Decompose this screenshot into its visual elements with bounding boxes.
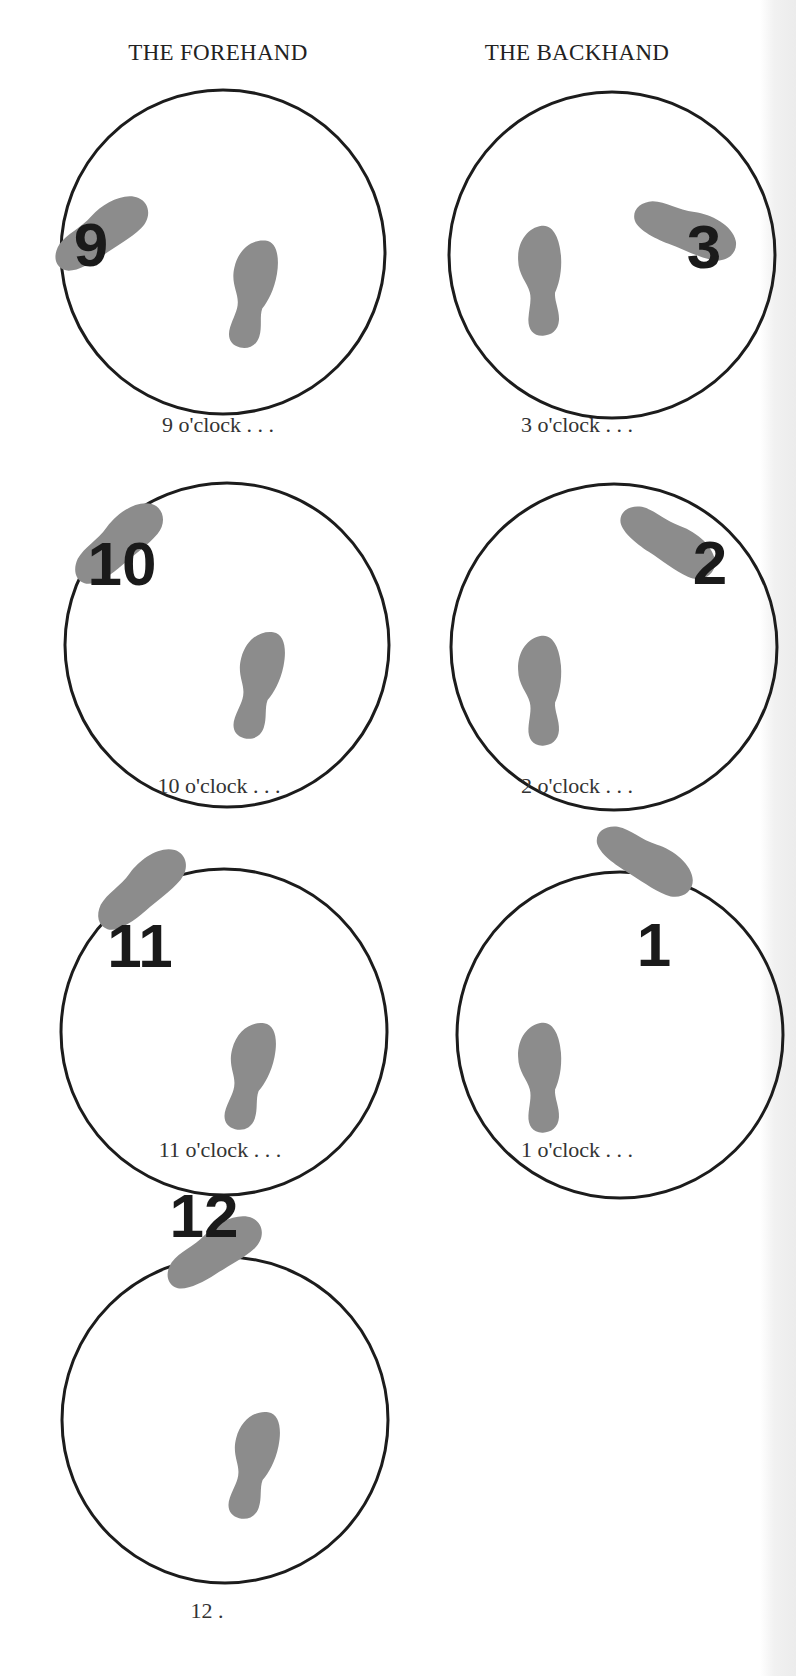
diagram-caption: 12 . (191, 1598, 224, 1623)
diagram-caption: 9 o'clock . . . (162, 412, 274, 437)
forehand-heading: THE FOREHAND (128, 40, 307, 65)
backhand-heading: THE BACKHAND (485, 40, 669, 65)
clock-diagram-9: 9 (43, 90, 385, 414)
clock-diagram-3: 3 (449, 92, 775, 418)
stationary-foot-icon (514, 224, 572, 338)
clock-diagram-10: 10 (61, 483, 389, 807)
diagram-caption: 1 o'clock . . . (521, 1137, 633, 1162)
clock-numeral: 10 (88, 529, 157, 598)
stepping-foot-icon (590, 809, 702, 910)
clock-numeral: 3 (687, 212, 721, 281)
diagram-caption: 10 o'clock . . . (157, 773, 280, 798)
diagram-caption: 3 o'clock . . . (521, 412, 633, 437)
clock-numeral: 1 (637, 910, 671, 979)
clock-ring (61, 90, 385, 414)
diagram-caption: 2 o'clock . . . (521, 773, 633, 798)
clock-numeral: 9 (74, 210, 108, 279)
stationary-foot-icon (221, 1019, 279, 1133)
clock-diagram-2: 2 (451, 484, 777, 810)
clock-numeral: 2 (693, 528, 727, 597)
stationary-foot-icon (225, 1408, 283, 1522)
clock-numeral: 12 (170, 1181, 239, 1250)
stationary-foot-icon (514, 634, 572, 748)
clock-ring (62, 1257, 388, 1583)
clock-diagram-12: 12 (62, 1181, 388, 1583)
clock-numeral: 11 (107, 911, 173, 980)
clock-ring (451, 484, 777, 810)
footwork-clock-figure: THE FOREHAND THE BACKHAND 9 9 o'clock . … (0, 0, 796, 1676)
stationary-foot-icon (230, 628, 288, 742)
stationary-foot-icon (514, 1021, 572, 1135)
stationary-foot-icon (226, 238, 281, 351)
diagram-caption: 11 o'clock . . . (159, 1137, 281, 1162)
